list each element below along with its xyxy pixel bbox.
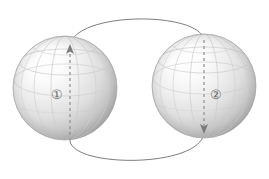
- sphere-1: [13, 35, 117, 140]
- sphere-1-label: ①: [51, 87, 63, 102]
- flux-loop-bottom-arc: [70, 133, 204, 160]
- sphere-2-label: ②: [210, 87, 222, 102]
- sphere-1-rim-shade: [13, 36, 117, 140]
- figure-container: ① ② Two spheres connected by a flux loop: [0, 0, 269, 179]
- sphere-2-rim-shade: [152, 34, 256, 138]
- sphere-2-label-text: ②: [210, 87, 222, 102]
- diagram-canvas: ① ②: [0, 0, 269, 179]
- sphere-1-label-text: ①: [51, 87, 63, 102]
